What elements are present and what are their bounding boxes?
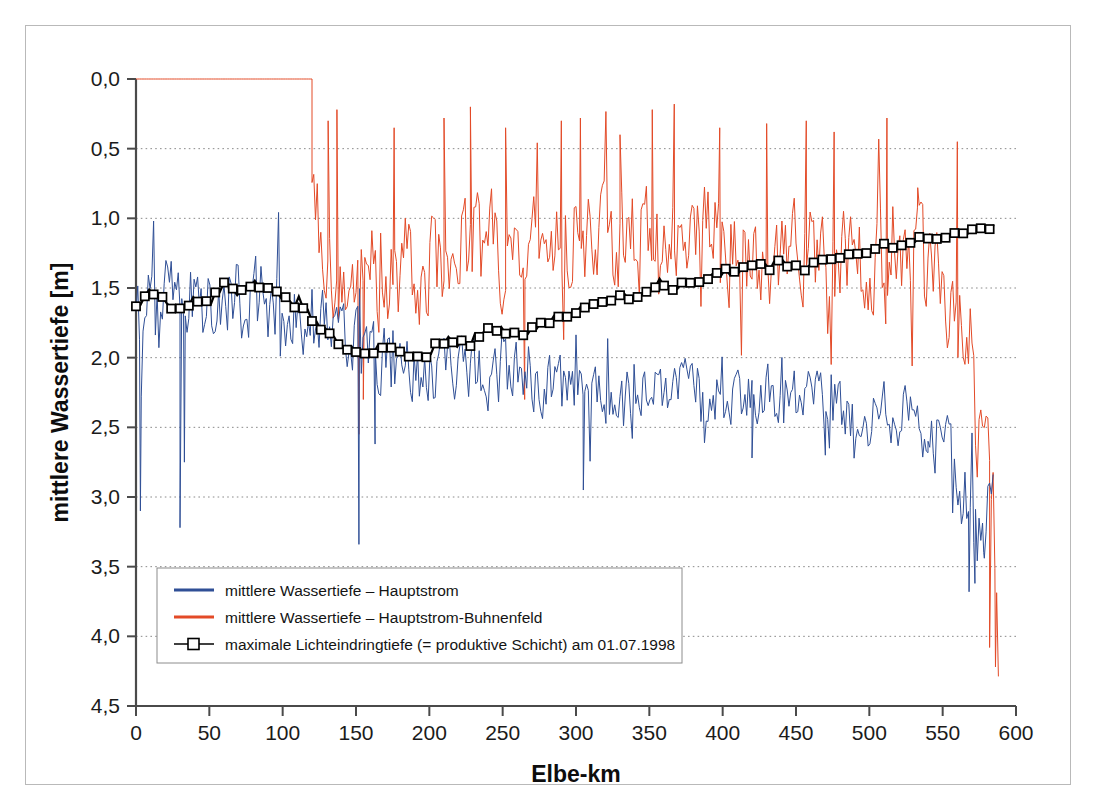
- x-tick-label: 0: [130, 721, 142, 744]
- legend-label: mittlere Wassertiefe – Hauptstrom-Buhnen…: [225, 609, 542, 626]
- data-point-marker: [220, 278, 228, 286]
- data-point-marker: [502, 330, 510, 338]
- data-point-marker: [246, 283, 254, 291]
- data-point-marker: [686, 279, 694, 287]
- data-point-marker: [528, 323, 536, 331]
- data-point-marker: [871, 245, 879, 253]
- data-point-marker: [431, 339, 439, 347]
- data-point-marker: [889, 244, 897, 252]
- chart-legend[interactable]: mittlere Wassertiefe – Hauptstrommittler…: [157, 568, 682, 663]
- x-tick-label: 350: [632, 721, 667, 744]
- data-point-marker: [616, 291, 624, 299]
- data-point-marker: [818, 256, 826, 264]
- data-point-marker: [387, 344, 395, 352]
- data-point-marker: [158, 293, 166, 301]
- data-point-marker: [475, 333, 483, 341]
- x-tick-label: 200: [412, 721, 447, 744]
- x-tick-label: 500: [852, 721, 887, 744]
- data-point-marker: [713, 269, 721, 277]
- data-point-marker: [748, 261, 756, 269]
- data-point-marker: [774, 256, 782, 264]
- data-point-marker: [968, 225, 976, 233]
- x-tick-label: 150: [338, 721, 373, 744]
- x-tick-label: 450: [778, 721, 813, 744]
- legend-label: maximale Lichteindringtiefe (= produktiv…: [225, 636, 675, 653]
- data-point-marker: [466, 342, 474, 350]
- data-point-marker: [449, 338, 457, 346]
- data-point-marker: [493, 327, 501, 335]
- x-tick-label: 50: [198, 721, 221, 744]
- x-tick-label: 550: [925, 721, 960, 744]
- data-point-marker: [783, 262, 791, 270]
- data-point-marker: [458, 336, 466, 344]
- data-point-marker: [211, 288, 219, 296]
- data-point-marker: [590, 300, 598, 308]
- data-point-marker: [739, 263, 747, 271]
- data-point-marker: [678, 278, 686, 286]
- water-depth-chart: 0,00,51,01,52,02,53,03,54,04,50501001502…: [26, 26, 1072, 786]
- data-point-marker: [378, 344, 386, 352]
- y-tick-label: 2,0: [91, 346, 120, 369]
- data-point-marker: [810, 258, 818, 266]
- y-tick-label: 3,5: [91, 555, 120, 578]
- data-point-marker: [202, 297, 210, 305]
- data-point-marker: [862, 249, 870, 257]
- data-point-marker: [730, 268, 738, 276]
- y-tick-label: 4,5: [91, 694, 120, 717]
- legend-entry-1[interactable]: mittlere Wassertiefe – Hauptstrom-Buhnen…: [174, 609, 542, 626]
- data-point-marker: [255, 283, 263, 291]
- data-point-marker: [361, 349, 369, 357]
- data-point-marker: [546, 319, 554, 327]
- data-point-marker: [308, 317, 316, 325]
- data-point-marker: [414, 352, 422, 360]
- data-point-marker: [986, 225, 994, 233]
- data-point-marker: [299, 304, 307, 312]
- legend-swatch-marker: [188, 639, 199, 650]
- data-point-marker: [669, 286, 677, 294]
- x-axis-title: Elbe-km: [531, 761, 620, 786]
- data-point-marker: [977, 224, 985, 232]
- data-point-marker: [176, 304, 184, 312]
- data-point-marker: [132, 302, 140, 310]
- data-point-marker: [651, 283, 659, 291]
- data-point-marker: [484, 324, 492, 332]
- x-tick-label: 250: [485, 721, 520, 744]
- data-point-marker: [405, 352, 413, 360]
- data-point-marker: [581, 303, 589, 311]
- data-point-marker: [537, 319, 545, 327]
- legend-entry-2[interactable]: maximale Lichteindringtiefe (= produktiv…: [174, 636, 675, 653]
- data-point-marker: [141, 292, 149, 300]
- data-point-marker: [282, 293, 290, 301]
- x-tick-label: 100: [265, 721, 300, 744]
- data-point-marker: [660, 281, 668, 289]
- data-point-marker: [836, 254, 844, 262]
- data-point-marker: [264, 284, 272, 292]
- data-point-marker: [317, 326, 325, 334]
- data-point-marker: [334, 340, 342, 348]
- data-point-marker: [229, 284, 237, 292]
- data-point-marker: [757, 260, 765, 268]
- data-point-marker: [343, 346, 351, 354]
- data-point-marker: [273, 287, 281, 295]
- figure-frame: 0,00,51,01,52,02,53,03,54,04,50501001502…: [25, 25, 1071, 785]
- data-point-marker: [185, 302, 193, 310]
- data-point-marker: [801, 266, 809, 274]
- data-point-marker: [898, 241, 906, 249]
- data-point-marker: [510, 328, 518, 336]
- data-point-marker: [440, 340, 448, 348]
- data-point-marker: [695, 278, 703, 286]
- data-point-marker: [519, 331, 527, 339]
- data-point-marker: [854, 250, 862, 258]
- data-point-marker: [598, 298, 606, 306]
- data-point-marker: [563, 313, 571, 321]
- data-point-marker: [290, 303, 298, 311]
- data-point-marker: [766, 266, 774, 274]
- data-point-marker: [422, 353, 430, 361]
- data-point-marker: [238, 286, 246, 294]
- data-point-marker: [915, 233, 923, 241]
- data-point-marker: [845, 250, 853, 258]
- y-tick-label: 3,0: [91, 485, 120, 508]
- data-point-marker: [950, 229, 958, 237]
- y-tick-label: 4,0: [91, 624, 120, 647]
- data-point-marker: [150, 290, 158, 298]
